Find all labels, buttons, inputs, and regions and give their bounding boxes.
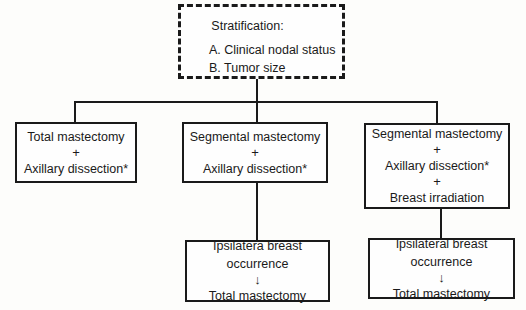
connector-top-vertical (256, 78, 258, 103)
plus-symbol: + (251, 146, 259, 160)
down-arrow-icon: ↓ (254, 273, 261, 287)
outcome-arm2: Ipsilatera breast occurrence ↓ Total mas… (185, 240, 330, 302)
down-arrow-icon: ↓ (438, 271, 445, 285)
plus-symbol: + (433, 143, 441, 157)
arm-line: Segmental mastectomy (190, 128, 321, 146)
arm-total-mastectomy: Total mastectomy + Axillary dissection* (15, 122, 137, 183)
outcome-line: Total mastectomy (209, 287, 306, 305)
stratification-item: B. Tumor size (209, 59, 285, 77)
connector-arm2 (256, 101, 258, 123)
stratification-title: Stratification: (181, 17, 314, 35)
arm-line: Segmental mastectomy (372, 125, 503, 143)
arm-line: Axillary dissection* (24, 160, 128, 178)
plus-symbol: + (72, 146, 80, 160)
outcome-line: occurrence (411, 253, 473, 271)
plus-symbol: + (433, 175, 441, 189)
stratification-box: Stratification: A. Clinical nodal status… (178, 4, 345, 79)
outcome-line: Ipsilatera breast (213, 237, 302, 255)
arm-segmental-mastectomy: Segmental mastectomy + Axillary dissecti… (182, 122, 328, 183)
arm-line: Breast irradiation (390, 189, 485, 207)
arm-line: Total mastectomy (27, 128, 124, 146)
connector-arm1 (74, 101, 76, 123)
arm-segmental-mastectomy-irradiation: Segmental mastectomy + Axillary dissecti… (364, 123, 510, 209)
arm-line: Axillary dissection* (385, 157, 489, 175)
outcome-arm3: Ipsilateral breast occurrence ↓ Total ma… (368, 238, 515, 299)
outcome-line: Total mastectomy (393, 285, 490, 303)
outcome-line: occurrence (227, 255, 289, 273)
stratification-item: A. Clinical nodal status (209, 41, 335, 59)
arm-line: Axillary dissection* (203, 160, 307, 178)
connector-arm2-outcome (256, 181, 258, 241)
connector-arm3 (436, 101, 438, 124)
outcome-line: Ipsilateral breast (396, 235, 488, 253)
